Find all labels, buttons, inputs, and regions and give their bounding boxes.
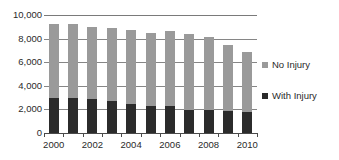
bar-group [242,52,252,133]
bar-segment-with-injury [242,112,252,133]
y-axis-tick-label: 8,000 [18,34,42,44]
bar-group [49,24,59,133]
bar-group [87,27,97,133]
x-axis-tick [180,133,181,137]
bar-group [204,37,214,133]
bar-series-container [44,15,257,133]
bar-group [146,33,156,133]
stacked-bar-chart: 02,0004,0006,0008,00010,000 200020022004… [0,0,339,160]
x-axis-tick-label: 2010 [229,139,265,150]
y-axis-tick-label: 4,000 [18,81,42,91]
x-axis-tick [83,133,84,137]
bar-segment-no-injury [49,24,59,98]
bar-segment-with-injury [223,111,233,133]
bar-group [107,28,117,133]
x-axis-tick [141,133,142,137]
bar-segment-no-injury [107,28,117,101]
bar-segment-no-injury [184,34,194,110]
legend-swatch-icon [262,93,268,99]
x-axis-tick [102,133,103,137]
x-axis-tick [238,133,239,137]
legend-item[interactable]: No Injury [262,60,310,70]
bar-segment-no-injury [146,33,156,106]
bar-segment-with-injury [87,99,97,133]
bar-segment-no-injury [204,37,214,109]
x-axis-tick [160,133,161,137]
bar-segment-with-injury [49,98,59,133]
x-axis-tick-label: 2008 [191,139,227,150]
y-axis-tick-label: 2,000 [18,104,42,114]
bar-segment-with-injury [68,98,78,133]
bar-group [223,45,233,133]
bar-segment-no-injury [68,24,78,98]
bar-segment-with-injury [126,104,136,133]
bar-segment-with-injury [107,101,117,133]
y-axis-tick-label: 10,000 [13,10,42,20]
x-axis-tick-label: 2000 [36,139,72,150]
x-axis-tick [44,133,45,137]
x-axis-line [44,133,257,134]
x-axis-tick [121,133,122,137]
y-axis-tick-label: 0 [37,128,42,138]
bar-segment-with-injury [184,110,194,133]
bar-segment-with-injury [165,106,175,133]
bar-group [184,34,194,133]
x-axis-tick-label: 2002 [74,139,110,150]
x-axis-tick [218,133,219,137]
x-axis-tick [257,133,258,137]
bar-segment-no-injury [223,45,233,111]
x-axis-tick [199,133,200,137]
bar-group [126,30,136,133]
x-axis-tick-label: 2006 [152,139,188,150]
bar-group [68,24,78,133]
x-axis-tick-label: 2004 [113,139,149,150]
x-axis-tick [63,133,64,137]
bar-segment-no-injury [126,30,136,104]
bar-segment-no-injury [165,31,175,106]
legend-label: No Injury [272,60,310,70]
bar-segment-with-injury [204,110,214,133]
legend-swatch-icon [262,62,268,68]
bar-segment-no-injury [242,52,252,113]
legend-label: With Injury [272,91,317,101]
bar-segment-with-injury [146,106,156,133]
bar-group [165,31,175,133]
bar-segment-no-injury [87,27,97,99]
y-axis-tick-label: 6,000 [18,57,42,67]
legend-item[interactable]: With Injury [262,91,317,101]
